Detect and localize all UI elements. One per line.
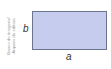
image-credit: Banco de imagens/ Arquivo da editora (1, 4, 21, 68)
credit-line-2: Arquivo da editora (11, 17, 16, 55)
width-label: a (66, 51, 72, 62)
rectangle-shape (32, 11, 107, 50)
height-label: b (23, 23, 29, 34)
